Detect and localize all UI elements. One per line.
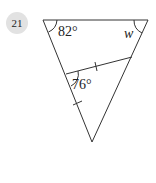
angle-label-82: 82° <box>58 24 78 39</box>
triangle-diagram: 82° w 76° <box>0 0 156 183</box>
interior-segment <box>66 57 132 74</box>
angle-arc-top-right <box>134 20 142 33</box>
angle-label-76: 76° <box>72 77 92 92</box>
tick-mark-left-side <box>73 101 82 105</box>
angle-arc-top-left <box>49 20 58 32</box>
angle-label-w: w <box>124 26 134 41</box>
